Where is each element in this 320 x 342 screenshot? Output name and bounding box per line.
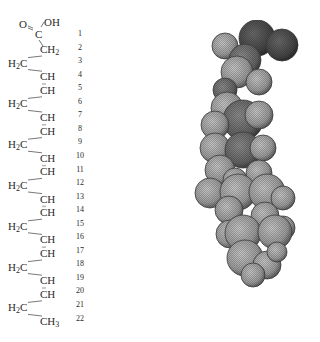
atom-shading [246, 69, 272, 95]
methylene-label: H2C [8, 220, 27, 234]
carbon-number: 17 [76, 246, 84, 255]
carbon-number: 11 [76, 165, 84, 174]
single-bond [28, 178, 42, 180]
methylene-label: H2C [8, 301, 27, 315]
carbon-group-label: CH [40, 206, 55, 218]
carbon-number: 9 [78, 137, 82, 146]
methylene-label: H2C [8, 138, 27, 152]
atom-shading [245, 101, 273, 129]
atom-shading [241, 263, 265, 287]
carbon-group-label: CH [40, 111, 55, 123]
carbon-number: 2 [78, 43, 82, 52]
carbon-group-label: CH [40, 165, 55, 177]
carbon-group-label: CH [40, 274, 55, 286]
carbon-number: 12 [76, 178, 84, 187]
methylene-label: H2C [8, 57, 27, 71]
methylene-label: H2C [8, 261, 27, 275]
carbonyl-oxygen-label: O [19, 18, 27, 30]
atom-shading [267, 242, 287, 262]
double-bond [28, 28, 33, 30]
carbon-group-label: CH [40, 288, 55, 300]
methylene-label: H2C [8, 179, 27, 193]
carbon-number: 10 [76, 151, 84, 160]
carbon-number: 22 [76, 314, 84, 323]
carbon-group-label: CH [40, 193, 55, 205]
single-bond [28, 219, 42, 221]
carbon-group-label: CH2 [40, 43, 59, 57]
carbon-group-label: CH [40, 125, 55, 137]
carbon-number: 6 [78, 97, 82, 106]
carbon-number: 21 [76, 300, 84, 309]
carbon-group-label: CH3 [40, 315, 59, 329]
carbon-number: 1 [78, 29, 82, 38]
carbon-number: 4 [78, 70, 82, 79]
single-bond [28, 260, 42, 262]
carboxyl-carbon-label: C [35, 28, 42, 40]
carbon-number: 13 [76, 192, 84, 201]
carbon-number: 16 [76, 232, 84, 241]
carbon-group-label: CH [40, 152, 55, 164]
carbon-group-label: CH [40, 84, 55, 96]
single-bond [28, 97, 42, 99]
single-bond [28, 56, 42, 58]
atom-shading [250, 135, 276, 161]
carbon-number: 8 [78, 124, 82, 133]
carbon-number: 19 [76, 273, 84, 282]
carbon-number: 14 [76, 205, 84, 214]
carbon-numbering: 12345678910111213141516171819202122 [76, 29, 84, 323]
chemical-structure: O OH C CH2H2CCHCHH2CCHCHH2CCHCHH2CCHCHH2… [0, 0, 110, 342]
atom-shading [266, 29, 298, 61]
carbon-chain: CH2H2CCHCHH2CCHCHH2CCHCHH2CCHCHH2CCHCHH2… [8, 43, 59, 329]
carbon-group-label: CH [40, 70, 55, 82]
carbon-number: 7 [78, 110, 82, 119]
single-bond [28, 138, 42, 140]
methylene-label: H2C [8, 97, 27, 111]
hydroxyl-label: OH [44, 16, 60, 28]
atom-spheres [195, 20, 298, 287]
carbon-number: 5 [78, 83, 82, 92]
carbon-group-label: CH [40, 247, 55, 259]
carbon-group-label: CH [40, 233, 55, 245]
carbon-number: 18 [76, 259, 84, 268]
single-bond [28, 301, 42, 303]
space-filling-model [185, 20, 320, 290]
carbon-number: 20 [76, 286, 84, 295]
carbon-number: 3 [78, 56, 82, 65]
carbon-number: 15 [76, 219, 84, 228]
double-bond [28, 26, 33, 28]
